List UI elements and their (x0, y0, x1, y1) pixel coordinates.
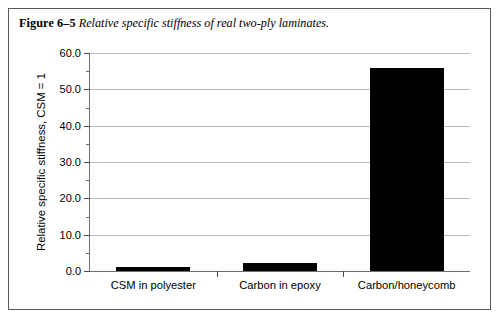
y-tick-label: 60.0 (60, 47, 81, 59)
bar-csm-in-polyester (116, 267, 190, 271)
x-category-label: CSM in polyester (111, 279, 196, 291)
plot-area: 0.010.020.030.040.050.060.0CSM in polyes… (89, 53, 470, 272)
y-axis-title-label: Relative specific stiffness, CSM = 1 (35, 73, 47, 251)
y-tick-minor (86, 217, 90, 218)
x-category-label: Carbon in epoxy (239, 279, 320, 291)
y-tick-major (84, 162, 90, 163)
y-axis-title: Relative specific stiffness, CSM = 1 (33, 53, 49, 271)
y-tick-label: 30.0 (60, 156, 81, 168)
y-tick-major (84, 53, 90, 54)
y-tick-minor (86, 71, 90, 72)
y-tick-label: 50.0 (60, 83, 81, 95)
y-tick-minor (86, 144, 90, 145)
y-tick-major (84, 271, 90, 272)
bar-carbon-honeycomb (370, 68, 444, 271)
y-tick-minor (86, 108, 90, 109)
y-tick-major (84, 198, 90, 199)
y-tick-label: 10.0 (60, 229, 81, 241)
bar-carbon-in-epoxy (243, 263, 317, 271)
gridline-60.0 (90, 53, 470, 54)
y-tick-label: 20.0 (60, 192, 81, 204)
x-tick-separator (343, 271, 344, 277)
y-tick-major (84, 89, 90, 90)
figure-frame: Figure 6–5 Relative specific stiffness o… (8, 8, 491, 310)
y-tick-label: 40.0 (60, 120, 81, 132)
bar-chart: Relative specific stiffness, CSM = 1 0.0… (9, 9, 492, 311)
gridline-0.0 (90, 271, 470, 272)
y-tick-major (84, 126, 90, 127)
y-tick-label: 0.0 (66, 265, 81, 277)
y-tick-minor (86, 180, 90, 181)
y-tick-minor (86, 253, 90, 254)
x-tick-separator (217, 271, 218, 277)
y-tick-major (84, 235, 90, 236)
x-category-label: Carbon/honeycomb (358, 279, 456, 291)
